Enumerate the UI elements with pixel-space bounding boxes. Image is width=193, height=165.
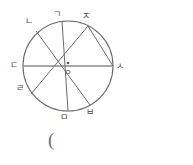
center-point-dot (67, 62, 70, 65)
caption-open-paren: ( (48, 130, 54, 149)
chord-line-j-s (88, 26, 113, 66)
center-point-label: ㅇ (64, 68, 72, 77)
vertex-label-r: ㄹ (16, 84, 24, 93)
vertex-label-j: ㅈ (82, 12, 90, 21)
vertex-label-d: ㄷ (10, 61, 18, 70)
vertex-label-n: ㄴ (25, 17, 33, 26)
vertex-label-m: ㅁ (60, 113, 68, 122)
vertex-label-g: ㄱ (53, 10, 61, 19)
circle-geometry-figure: ㄱ ㄴ ㄷ ㄹ ㅁ ㅂ ㅅ ㅈ ㅇ ( (0, 0, 193, 165)
vertex-label-s: ㅅ (116, 62, 124, 71)
vertex-label-b: ㅂ (86, 108, 94, 117)
